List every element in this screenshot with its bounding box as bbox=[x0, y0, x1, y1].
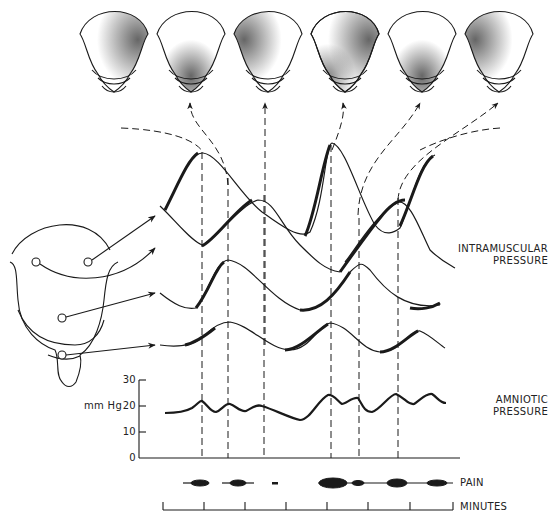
y-tick-10: 10 bbox=[112, 426, 136, 438]
amniotic-label-line2: PRESSURE bbox=[470, 406, 548, 418]
curve-site-2b bbox=[345, 202, 455, 268]
curve-site-1 bbox=[165, 143, 435, 234]
minutes-label: MINUTES bbox=[460, 501, 507, 513]
site-2-marker bbox=[32, 258, 40, 266]
uterus-view-4 bbox=[311, 12, 379, 93]
site-4-marker bbox=[58, 351, 66, 359]
uterus-view-6 bbox=[465, 12, 533, 93]
amniotic-pressure-curve bbox=[165, 394, 446, 420]
y-tick-30: 30 bbox=[112, 374, 136, 386]
intramuscular-label: INTRAMUSCULAR PRESSURE bbox=[440, 243, 548, 267]
amniotic-label-line1: AMNIOTIC bbox=[470, 394, 548, 406]
pain-label: PAIN bbox=[460, 477, 484, 489]
site-1-marker bbox=[84, 258, 92, 266]
intramuscular-curves bbox=[160, 143, 455, 352]
intramuscular-label-line2: PRESSURE bbox=[440, 255, 548, 267]
uterus-recording-sites bbox=[10, 216, 155, 387]
site-3-marker bbox=[58, 314, 66, 322]
uterus-view-3 bbox=[234, 12, 302, 93]
uterus-views bbox=[80, 12, 533, 93]
curve-site-4-thick bbox=[185, 324, 418, 352]
minutes-scale bbox=[163, 502, 453, 510]
uterus-view-1 bbox=[80, 12, 148, 93]
y-tick-0: 0 bbox=[112, 452, 136, 464]
intramuscular-label-line1: INTRAMUSCULAR bbox=[440, 243, 548, 255]
y-tick-20: 20 bbox=[112, 400, 136, 412]
pain-bar bbox=[183, 478, 453, 488]
uterus-view-5 bbox=[388, 12, 456, 93]
curve-site-3-thick bbox=[196, 262, 440, 310]
amniotic-label: AMNIOTIC PRESSURE bbox=[470, 394, 548, 418]
curve-site-1-thick bbox=[165, 145, 433, 236]
uterus-view-2 bbox=[157, 12, 225, 93]
